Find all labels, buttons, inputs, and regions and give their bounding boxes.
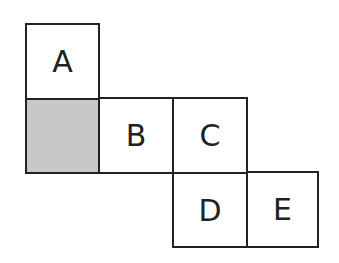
face-d: D (172, 172, 248, 248)
face-a: A (25, 23, 100, 100)
face-e: E (246, 171, 319, 248)
face-b: B (98, 97, 174, 174)
face-shaded (25, 98, 100, 174)
face-c: C (172, 97, 248, 174)
